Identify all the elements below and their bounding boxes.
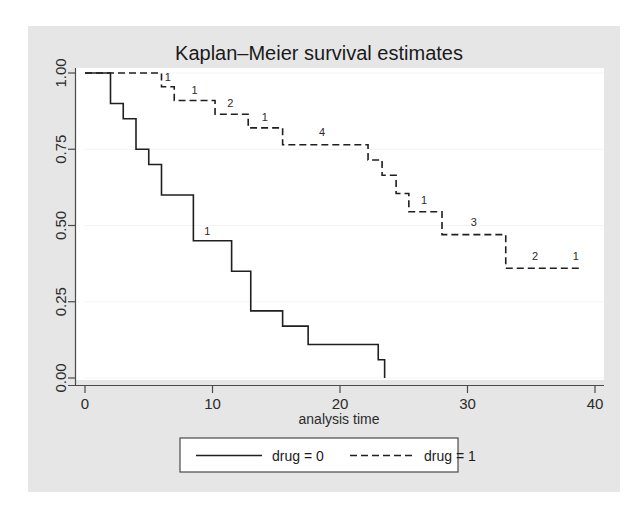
- figure-container: Kaplan–Meier survival estimates 0.000.25…: [0, 0, 638, 513]
- y-tick-label-1: 0.25: [52, 287, 69, 316]
- x-tick-label-3: 30: [459, 395, 476, 412]
- at-risk-label: 1: [204, 225, 210, 237]
- x-tick-label-2: 20: [332, 395, 349, 412]
- at-risk-label: 2: [532, 250, 538, 262]
- y-axis: 0.000.250.500.751.00: [52, 58, 76, 392]
- x-axis-ticks: 010203040: [81, 386, 604, 413]
- at-risk-label: 2: [227, 97, 233, 109]
- x-tick-label-4: 40: [587, 395, 604, 412]
- y-tick-label-0: 0.00: [52, 363, 69, 392]
- legend: drug = 0 drug = 1: [180, 438, 476, 472]
- at-risk-label: 1: [421, 194, 427, 206]
- x-axis-title: analysis time: [299, 411, 380, 427]
- x-tick-label-1: 10: [204, 395, 221, 412]
- at-risk-label: 1: [192, 84, 198, 96]
- x-axis: 010203040 analysis time: [68, 386, 604, 428]
- y-axis-ticks: 0.000.250.500.751.00: [52, 58, 76, 392]
- at-risk-label: 3: [471, 216, 477, 228]
- x-tick-label-0: 0: [81, 395, 89, 412]
- y-tick-label-3: 0.75: [52, 135, 69, 164]
- y-tick-label-2: 0.50: [52, 211, 69, 240]
- at-risk-label: 4: [319, 126, 325, 138]
- plot-region: [76, 68, 604, 380]
- y-tick-label-4: 1.00: [52, 58, 69, 87]
- at-risk-label: 1: [165, 71, 171, 83]
- at-risk-label: 1: [573, 250, 579, 262]
- chart-title: Kaplan–Meier survival estimates: [175, 42, 463, 64]
- chart-svg: Kaplan–Meier survival estimates 0.000.25…: [0, 0, 638, 513]
- legend-label-drug-1: drug = 1: [424, 448, 476, 464]
- legend-label-drug-0: drug = 0: [272, 448, 324, 464]
- at-risk-label: 1: [262, 111, 268, 123]
